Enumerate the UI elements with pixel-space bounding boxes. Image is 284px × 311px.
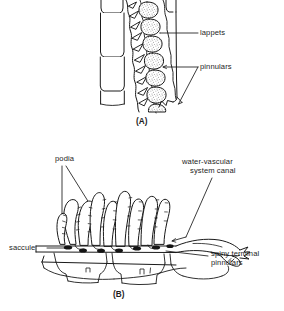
figure-caption-cutoff <box>0 304 284 311</box>
label-spiny-line2: pinnulars <box>211 258 243 267</box>
label-lappets: lappets <box>200 29 225 38</box>
label-wvsc-line2: system canal <box>182 167 236 176</box>
label-podia: podia <box>55 155 74 164</box>
label-pinnulars: pinnulars <box>200 63 232 72</box>
label-wvsc-line1: water-vascular <box>182 157 233 166</box>
figure-root: lappets pinnulars (A) podia water-vascul… <box>0 0 284 311</box>
panel-tag-a: (A) <box>136 117 147 126</box>
label-water-vascular-system-canal: water-vascular system canal <box>182 158 236 175</box>
panel-tag-b: (B) <box>113 290 124 299</box>
label-saccule: saccule <box>9 244 35 253</box>
label-spiny-terminal-pinnulars: spiny terminal pinnulars <box>211 250 259 267</box>
